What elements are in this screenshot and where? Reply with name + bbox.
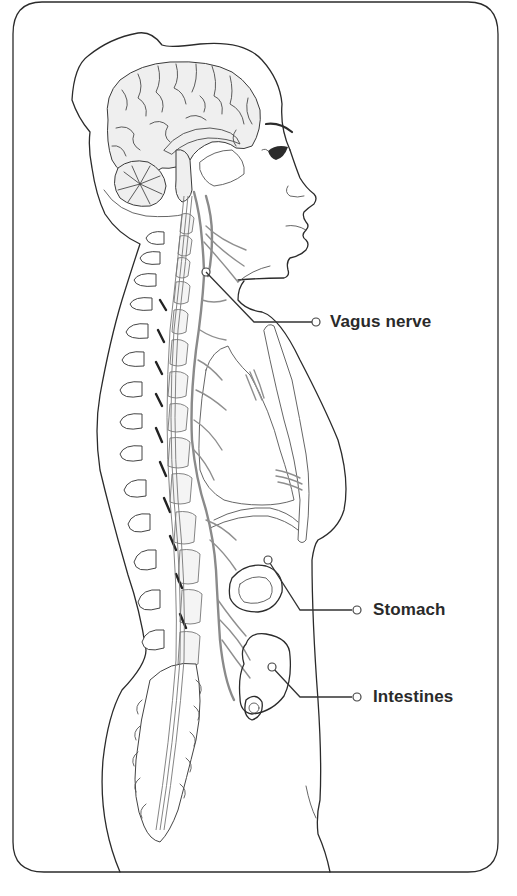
label-vagus-nerve: Vagus nerve	[330, 313, 431, 330]
label-stomach: Stomach	[373, 601, 446, 618]
stomach-organ	[229, 565, 282, 612]
spinal-column	[120, 196, 202, 842]
label-leader-vagus	[206, 272, 320, 326]
vagus-nerve	[192, 192, 251, 700]
label-leader-intestines	[268, 663, 361, 701]
brain	[107, 62, 260, 207]
eye	[268, 146, 288, 160]
intestines-organ	[240, 634, 291, 720]
vagus-nerve-diagram	[0, 0, 517, 896]
eyebrow	[266, 124, 292, 132]
label-intestines: Intestines	[373, 688, 453, 705]
face-profile	[238, 150, 316, 280]
